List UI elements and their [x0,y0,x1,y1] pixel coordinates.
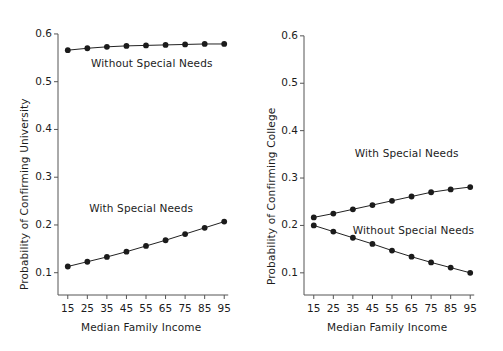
data-point [143,243,149,249]
y-axis-title: Probability of Confirming University [18,98,30,290]
data-point [389,198,395,204]
y-axis-title: Probability of Confirming College [265,108,277,285]
data-point [182,231,188,237]
data-point [311,223,317,229]
data-point [409,254,415,260]
data-point [370,241,376,247]
chart-panel-college: 0.10.20.30.40.50.6152535455565758595With… [251,0,503,351]
data-point [182,42,188,48]
data-point [350,235,356,241]
data-point [467,270,473,276]
data-point [163,42,169,48]
data-point [143,43,149,49]
data-point [221,41,227,47]
x-axis-title: Median Family Income [58,321,224,333]
data-point [428,260,434,266]
data-point [448,265,454,271]
data-point [65,47,71,53]
two-panel-figure: 0.10.20.30.40.50.6152535455565758595With… [0,0,503,351]
data-point [84,259,90,265]
data-point [409,194,415,200]
data-point [448,187,454,193]
data-point [428,189,434,195]
data-point [467,184,473,190]
data-point [104,44,110,50]
data-point [84,45,90,51]
x-axis-title: Median Family Income [304,321,470,333]
data-point [350,206,356,212]
data-point [202,225,208,231]
data-point [124,249,130,255]
data-point [311,214,317,220]
plot-area [0,0,251,351]
data-point [389,248,395,254]
data-point [65,264,71,270]
data-point [202,41,208,47]
data-point [104,254,110,260]
plot-area [251,0,503,351]
chart-panel-university: 0.10.20.30.40.50.6152535455565758595With… [0,0,251,351]
data-point [370,202,376,208]
data-point [163,237,169,243]
data-point [221,219,227,225]
data-point [330,211,336,217]
data-point [124,43,130,49]
data-point [330,229,336,235]
